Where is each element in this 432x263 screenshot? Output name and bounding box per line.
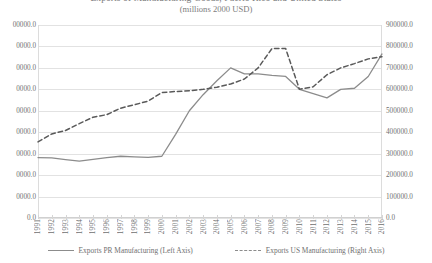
x-axis-tick	[382, 215, 383, 219]
x-axis-tick-label: 2011	[310, 219, 318, 234]
x-axis-tick	[79, 215, 80, 219]
x-axis-tick	[134, 215, 135, 219]
x-axis-tick	[272, 215, 273, 219]
left-axis-tick-label: 0000.0	[16, 107, 36, 115]
x-axis-tick	[107, 215, 108, 219]
x-axis-tick	[148, 215, 149, 219]
x-axis-tick	[327, 215, 328, 219]
x-axis-tick-label: 1993	[62, 219, 70, 234]
x-axis-tick-label: 1997	[117, 219, 125, 234]
x-axis-tick-label: 2012	[323, 219, 331, 234]
x-axis-tick	[231, 215, 232, 219]
x-axis-tick-label: 2016	[378, 219, 386, 234]
series-lines	[38, 25, 382, 218]
x-axis-tick	[244, 215, 245, 219]
chart-legend: Exports PR Manufacturing (Left Axis)Expo…	[0, 246, 432, 255]
right-axis-tick-label: 200000.0	[386, 171, 413, 179]
x-axis-tick-label: 2009	[282, 219, 290, 234]
chart-subtitle: (millions 2000 USD)	[0, 4, 432, 14]
left-axis-tick-label: 0000.0	[16, 150, 36, 158]
legend-swatch-icon	[48, 250, 74, 251]
x-axis-tick-label: 2000	[158, 219, 166, 234]
left-axis-tick-label: 0000.0	[16, 42, 36, 50]
legend-item[interactable]: Exports US Manufacturing (Right Axis)	[235, 246, 385, 255]
right-axis-tick-label: 900000.0	[386, 21, 413, 29]
x-axis-tick	[203, 215, 204, 219]
x-axis-tick-label: 1998	[131, 219, 139, 234]
x-axis-tick	[217, 215, 218, 219]
x-axis-tick-label: 2008	[268, 219, 276, 234]
x-axis-tick-label: 2010	[296, 219, 304, 234]
x-axis-tick-label: 2002	[186, 219, 194, 234]
x-axis-tick-label: 1996	[103, 219, 111, 234]
left-axis-tick-label: 0000.0	[16, 64, 36, 72]
x-axis-tick-label: 1991	[34, 219, 42, 234]
x-axis-tick	[162, 215, 163, 219]
x-axis-labels: 1991199219931994199519961997199819992000…	[38, 219, 382, 247]
right-axis-tick-label: 300000.0	[386, 150, 413, 158]
left-axis-tick-label: 00000.0	[13, 21, 36, 29]
x-axis-tick-label: 2005	[227, 219, 235, 234]
x-axis-tick-label: 2013	[337, 219, 345, 234]
x-axis-tick	[52, 215, 53, 219]
plot-area	[38, 25, 382, 218]
left-axis-labels: 0.00000.00000.00000.00000.00000.00000.00…	[0, 25, 36, 218]
x-axis-tick	[258, 215, 259, 219]
right-axis-tick-label: 700000.0	[386, 64, 413, 72]
x-axis-tick-label: 2014	[351, 219, 359, 234]
right-axis-tick-label: 100000.0	[386, 193, 413, 201]
x-axis-tick-label: 1992	[48, 219, 56, 234]
left-axis-tick-label: 0000.0	[16, 171, 36, 179]
x-axis-tick	[286, 215, 287, 219]
x-axis-tick-label: 2004	[213, 219, 221, 234]
x-axis-tick	[66, 215, 67, 219]
legend-label: Exports PR Manufacturing (Left Axis)	[79, 246, 193, 255]
right-axis-tick-label: 0.0	[386, 214, 395, 222]
x-axis-tick	[368, 215, 369, 219]
x-axis-tick-label: 2015	[365, 219, 373, 234]
x-axis-tick-label: 2006	[241, 219, 249, 234]
left-axis-tick-label: 0000.0	[16, 128, 36, 136]
x-axis-tick-label: 1999	[144, 219, 152, 234]
x-axis-tick-label: 2001	[172, 219, 180, 234]
x-axis-tick	[176, 215, 177, 219]
right-axis-labels: 0.0100000.0200000.0300000.0400000.050000…	[386, 25, 432, 218]
chart-container: Exports of Manufacturing Goods, Puerto R…	[0, 0, 432, 263]
x-axis-tick	[121, 215, 122, 219]
right-axis-tick-label: 500000.0	[386, 107, 413, 115]
x-axis-tick	[354, 215, 355, 219]
series-line	[38, 54, 382, 161]
legend-label: Exports US Manufacturing (Right Axis)	[266, 246, 385, 255]
chart-title: Exports of Manufacturing Goods, Puerto R…	[0, 0, 432, 3]
left-axis-tick-label: 0000.0	[16, 193, 36, 201]
legend-item[interactable]: Exports PR Manufacturing (Left Axis)	[48, 246, 193, 255]
x-axis-tick-label: 1994	[76, 219, 84, 234]
x-axis-tick-label: 1995	[89, 219, 97, 234]
x-axis-tick	[189, 215, 190, 219]
x-axis-tick-label: 2007	[255, 219, 263, 234]
left-axis-tick-label: 0000.0	[16, 85, 36, 93]
right-axis-tick-label: 600000.0	[386, 85, 413, 93]
x-axis-tick	[341, 215, 342, 219]
legend-swatch-icon	[235, 250, 261, 251]
x-axis-tick	[313, 215, 314, 219]
x-axis-tick	[93, 215, 94, 219]
x-axis-tick	[38, 215, 39, 219]
x-axis-tick	[299, 215, 300, 219]
right-axis-tick-label: 800000.0	[386, 42, 413, 50]
x-axis-tick-label: 2003	[200, 219, 208, 234]
right-axis-tick-label: 400000.0	[386, 128, 413, 136]
